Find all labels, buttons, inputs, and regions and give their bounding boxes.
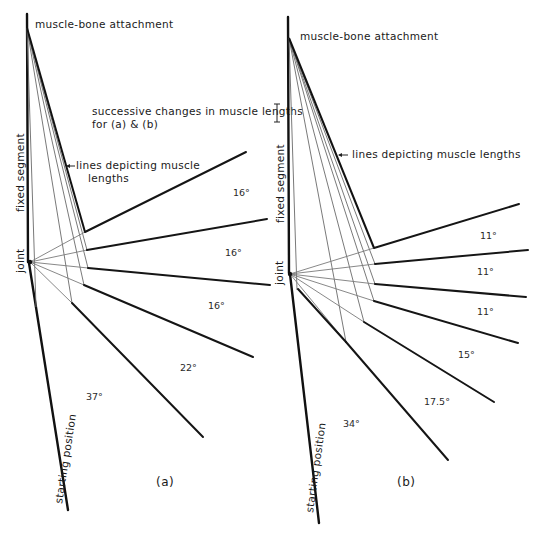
attachment-label-a: muscle-bone attachment xyxy=(35,18,173,30)
angle-b-2: 17.5° xyxy=(424,396,450,407)
angle-a-2: 22° xyxy=(180,362,197,373)
muscle-lines-pointer-b xyxy=(338,153,348,157)
fixed-segment-label-b: fixed segment xyxy=(274,144,286,223)
angle-a-1: 37° xyxy=(86,391,103,402)
angle-b-5: 11° xyxy=(477,266,494,277)
joint-marker-b xyxy=(288,272,292,276)
angle-a-4: 16° xyxy=(225,247,242,258)
segment-positions-b xyxy=(298,204,528,460)
fixed-segment-label-a: fixed segment xyxy=(14,133,26,212)
joint-marker-a xyxy=(28,260,32,264)
panel-label-a: (a) xyxy=(156,475,174,489)
panel-label-b: (b) xyxy=(397,475,415,489)
scale-label-line2: for (a) & (b) xyxy=(92,118,158,130)
angle-b-3: 15° xyxy=(458,349,475,360)
muscle-lines-b xyxy=(289,38,375,342)
segment-proximal-a xyxy=(30,232,88,303)
muscle-lines-label-a-2: lengths xyxy=(88,172,129,184)
joint-label-a: joint xyxy=(14,248,26,274)
scale-label-line1: successive changes in muscle lengths xyxy=(92,105,303,117)
attachment-label-b: muscle-bone attachment xyxy=(300,30,438,42)
angle-b-1: 34° xyxy=(343,418,360,429)
panel-b: muscle-bone attachment lines depicting m… xyxy=(273,17,528,523)
angle-a-5: 16° xyxy=(233,187,250,198)
angle-b-4: 11° xyxy=(477,306,494,317)
muscle-lines-label-a-1: lines depicting muscle xyxy=(76,159,200,171)
panel-a: muscle-bone attachment successive change… xyxy=(14,14,303,510)
angle-a-3: 16° xyxy=(208,300,225,311)
angle-b-6: 11° xyxy=(480,230,497,241)
muscle-length-diagram: muscle-bone attachment successive change… xyxy=(0,0,537,533)
fixed-segment-b xyxy=(288,17,289,273)
joint-label-b: joint xyxy=(273,260,285,286)
starting-position-label-b: starting position xyxy=(303,422,328,514)
muscle-lines-label-b: lines depicting muscle lengths xyxy=(352,148,521,160)
